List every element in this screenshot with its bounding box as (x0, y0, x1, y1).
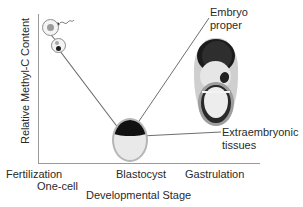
sperm-tail-icon (60, 20, 74, 23)
callout-embryo-proper-line2: proper (210, 19, 248, 32)
methylation-developmental-stage-figure: Relative Methyl-C Content Developmental … (0, 0, 303, 207)
callout-embryo-proper: Embryo proper (210, 6, 248, 31)
blastocyst-icon (112, 118, 148, 162)
callout-extraembryonic-line2: tissues (222, 139, 298, 152)
one-cell-paternal-pronucleus-icon (56, 46, 61, 51)
blastocyst-inner-cell-mass (114, 120, 146, 136)
zygote-nucleus-icon (47, 24, 54, 31)
callout-embryo-proper-line1: Embryo (210, 6, 248, 19)
callout-extraembryonic-tissues: Extraembryonic tissues (222, 126, 298, 151)
callout-extraembryonic-line1: Extraembryonic (222, 126, 298, 139)
leader-line-extraembryonic (141, 132, 221, 136)
one-cell-maternal-pronucleus-icon (55, 41, 59, 45)
blastocyst-trophectoderm (114, 120, 146, 160)
gastrula-cleft (202, 91, 230, 93)
gastrulating-embryo-icon (190, 36, 246, 128)
